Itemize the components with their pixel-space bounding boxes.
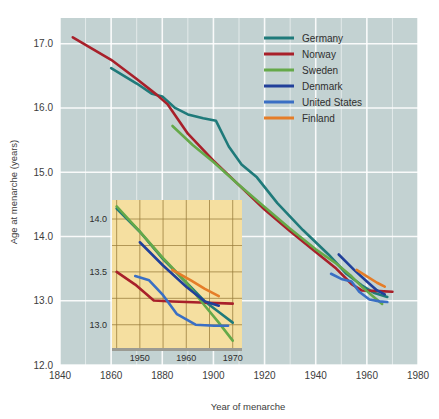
inset-y-tick-label: 13.0 bbox=[89, 320, 107, 330]
x-tick-label: 1980 bbox=[407, 370, 430, 381]
y-axis-title: Age at menarche (years) bbox=[8, 140, 19, 245]
legend-label-finland: Finland bbox=[302, 113, 335, 124]
inset-bottom-edge bbox=[112, 348, 242, 351]
menarche-age-chart-figure: 13.013.514.0195019601970 12.013.014.015.… bbox=[0, 0, 439, 419]
inset-y-tick-label: 14.0 bbox=[89, 214, 107, 224]
legend-label-germany: Germany bbox=[302, 33, 343, 44]
legend-label-denmark: Denmark bbox=[302, 81, 344, 92]
x-tick-label: 1880 bbox=[151, 370, 174, 381]
x-tick-label: 1920 bbox=[253, 370, 276, 381]
y-tick-label: 15.0 bbox=[34, 167, 54, 178]
x-axis-title: Year of menarche bbox=[211, 401, 286, 412]
x-tick-label: 1900 bbox=[202, 370, 225, 381]
y-tick-label: 17.0 bbox=[34, 38, 54, 49]
inset-x-tick-label: 1970 bbox=[223, 353, 243, 363]
y-tick-label: 14.0 bbox=[34, 231, 54, 242]
x-tick-label: 1840 bbox=[49, 370, 72, 381]
inset-x-tick-label: 1960 bbox=[176, 353, 196, 363]
legend-label-sweden: Sweden bbox=[302, 65, 338, 76]
y-tick-label: 16.0 bbox=[34, 102, 54, 113]
inset-chart: 13.013.514.0195019601970 bbox=[89, 200, 242, 363]
inset-x-tick-label: 1950 bbox=[130, 353, 150, 363]
inset-y-tick-label: 13.5 bbox=[89, 267, 107, 277]
y-tick-label: 13.0 bbox=[34, 295, 54, 306]
legend-label-norway: Norway bbox=[302, 49, 336, 60]
x-tick-label: 1940 bbox=[305, 370, 328, 381]
x-tick-label: 1960 bbox=[356, 370, 379, 381]
y-tick-label: 12.0 bbox=[34, 360, 54, 371]
legend-label-united-states: United States bbox=[302, 97, 362, 108]
chart-canvas: 13.013.514.0195019601970 12.013.014.015.… bbox=[0, 0, 439, 419]
x-tick-label: 1860 bbox=[100, 370, 123, 381]
